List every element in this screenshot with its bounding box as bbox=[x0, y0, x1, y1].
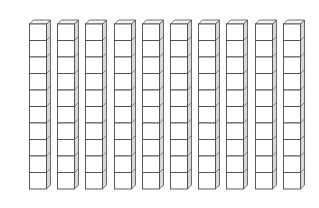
base-ten-rods-figure: Base-ten blocks: ten rods of ten unit cu… bbox=[0, 0, 319, 208]
unit-cube bbox=[284, 41, 301, 58]
unit-cube bbox=[86, 74, 103, 91]
unit-cube bbox=[58, 90, 75, 107]
unit-cube bbox=[86, 173, 103, 190]
unit-cube bbox=[58, 156, 75, 173]
unit-cube bbox=[227, 24, 244, 41]
unit-cube bbox=[199, 173, 216, 190]
unit-cube bbox=[115, 24, 132, 41]
unit-cube bbox=[143, 24, 160, 41]
unit-cube bbox=[86, 24, 103, 41]
rod bbox=[256, 20, 277, 189]
rod bbox=[284, 20, 305, 189]
unit-cube bbox=[171, 123, 188, 140]
unit-cube bbox=[143, 123, 160, 140]
unit-cube bbox=[199, 107, 216, 124]
unit-cube bbox=[199, 74, 216, 91]
unit-cube bbox=[284, 74, 301, 91]
unit-cube bbox=[227, 57, 244, 74]
unit-cube bbox=[30, 74, 47, 91]
unit-cube bbox=[115, 123, 132, 140]
unit-cube bbox=[256, 41, 273, 58]
unit-cube bbox=[256, 140, 273, 157]
unit-cube bbox=[171, 173, 188, 190]
unit-cube bbox=[256, 57, 273, 74]
unit-cube bbox=[171, 90, 188, 107]
unit-cube bbox=[30, 123, 47, 140]
unit-cube bbox=[284, 57, 301, 74]
unit-cube bbox=[143, 57, 160, 74]
unit-cube bbox=[199, 41, 216, 58]
unit-cube bbox=[143, 107, 160, 124]
unit-cube bbox=[199, 156, 216, 173]
unit-cube bbox=[86, 90, 103, 107]
unit-cube bbox=[58, 41, 75, 58]
unit-cube bbox=[115, 57, 132, 74]
unit-cube bbox=[256, 90, 273, 107]
rod bbox=[115, 20, 136, 189]
rod bbox=[30, 20, 51, 189]
unit-cube bbox=[143, 90, 160, 107]
unit-cube bbox=[58, 173, 75, 190]
unit-cube bbox=[171, 140, 188, 157]
unit-cube bbox=[199, 90, 216, 107]
unit-cube bbox=[284, 156, 301, 173]
unit-cube bbox=[284, 123, 301, 140]
unit-cube bbox=[143, 156, 160, 173]
unit-cube bbox=[171, 107, 188, 124]
unit-cube bbox=[143, 74, 160, 91]
unit-cube bbox=[30, 107, 47, 124]
unit-cube bbox=[30, 173, 47, 190]
unit-cube bbox=[86, 57, 103, 74]
unit-cube bbox=[30, 41, 47, 58]
rod bbox=[199, 20, 220, 189]
unit-cube bbox=[171, 24, 188, 41]
unit-cube bbox=[58, 140, 75, 157]
unit-cube bbox=[199, 123, 216, 140]
unit-cube bbox=[256, 156, 273, 173]
rod bbox=[143, 20, 164, 189]
unit-cube bbox=[284, 107, 301, 124]
unit-cube bbox=[256, 74, 273, 91]
unit-cube bbox=[115, 173, 132, 190]
unit-cube bbox=[227, 140, 244, 157]
unit-cube bbox=[115, 156, 132, 173]
unit-cube bbox=[171, 156, 188, 173]
unit-cube bbox=[284, 140, 301, 157]
unit-cube bbox=[171, 41, 188, 58]
unit-cube bbox=[171, 74, 188, 91]
unit-cube bbox=[199, 24, 216, 41]
unit-cube bbox=[30, 156, 47, 173]
rod bbox=[227, 20, 248, 189]
unit-cube bbox=[30, 90, 47, 107]
unit-cube bbox=[256, 173, 273, 190]
unit-cube bbox=[58, 74, 75, 91]
unit-cube bbox=[227, 123, 244, 140]
unit-cube bbox=[199, 57, 216, 74]
unit-cube bbox=[227, 90, 244, 107]
unit-cube bbox=[30, 57, 47, 74]
unit-cube bbox=[227, 156, 244, 173]
unit-cube bbox=[115, 90, 132, 107]
unit-cube bbox=[86, 123, 103, 140]
unit-cube bbox=[58, 123, 75, 140]
unit-cube bbox=[171, 57, 188, 74]
rod bbox=[86, 20, 107, 189]
rod bbox=[58, 20, 79, 189]
unit-cube bbox=[227, 41, 244, 58]
unit-cube bbox=[58, 107, 75, 124]
unit-cube bbox=[86, 107, 103, 124]
unit-cube bbox=[256, 107, 273, 124]
unit-cube bbox=[115, 140, 132, 157]
unit-cube bbox=[86, 41, 103, 58]
unit-cube bbox=[143, 41, 160, 58]
rod bbox=[171, 20, 192, 189]
unit-cube bbox=[256, 123, 273, 140]
unit-cube bbox=[143, 140, 160, 157]
unit-cube bbox=[58, 57, 75, 74]
unit-cube bbox=[86, 156, 103, 173]
unit-cube bbox=[115, 74, 132, 91]
unit-cube bbox=[227, 74, 244, 91]
unit-cube bbox=[284, 173, 301, 190]
unit-cube bbox=[86, 140, 103, 157]
unit-cube bbox=[284, 24, 301, 41]
